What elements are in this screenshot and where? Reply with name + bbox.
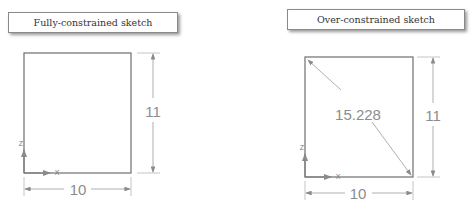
height-dimension-value: 11: [425, 107, 441, 124]
diagonal-dimension: 15.228: [308, 60, 411, 175]
z-axis-label: Z: [19, 140, 24, 147]
fully-constrained-sketch: 11 10 Z X: [19, 53, 161, 198]
axis-triad: Z X: [19, 140, 60, 176]
sketch-rectangle: [24, 53, 131, 173]
x-axis-label: X: [336, 173, 341, 180]
over-constrained-sketch: 15.228 11 10 Z X: [300, 57, 441, 202]
sketch-canvas: 11 10 Z X 15.228: [0, 0, 475, 211]
height-dimension: 11: [137, 53, 161, 173]
x-axis-label: X: [55, 169, 60, 176]
width-dimension: 10: [305, 181, 413, 202]
width-dimension-value: 10: [70, 181, 87, 198]
width-dimension: 10: [24, 177, 131, 198]
height-dimension: 11: [417, 57, 441, 177]
width-dimension-value: 10: [350, 185, 367, 202]
axis-triad: Z X: [300, 144, 341, 180]
z-axis-label: Z: [300, 144, 305, 151]
diagonal-dimension-value: 15.228: [335, 106, 381, 123]
height-dimension-value: 11: [145, 103, 161, 120]
